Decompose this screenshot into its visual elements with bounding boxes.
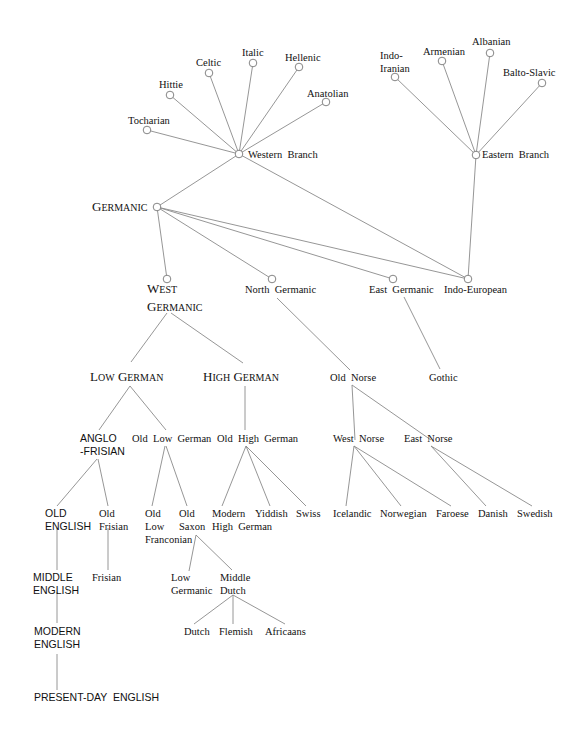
node-label-old-frisian: OldFrisian (99, 508, 129, 532)
node-circle-icon (295, 63, 303, 71)
node-label-high-german: HIGH GERMAN (203, 369, 279, 384)
tree-edge (239, 67, 299, 154)
node-label-germanic: GERMANIC (92, 199, 148, 214)
node-circle-icon (166, 91, 174, 99)
node-label-modern-english: MODERNENGLISH (34, 625, 81, 650)
tree-edge (431, 446, 532, 506)
tree-edge (233, 595, 285, 624)
node-label-gothic: Gothic (429, 372, 458, 383)
node-label-frisian: Frisian (92, 572, 122, 583)
node-label-anatolian: Anatolian (307, 88, 349, 99)
tree-edge (346, 446, 354, 506)
node-label-west-germanic: WESTGERMANIC (147, 281, 203, 314)
tree-edge (246, 446, 306, 506)
tree-edge (404, 297, 440, 369)
node-circle-icon (391, 73, 399, 81)
tree-edge (157, 207, 272, 279)
node-circle-icon (472, 151, 480, 159)
tree-edge (277, 298, 350, 370)
node-circle-icon (464, 275, 472, 283)
node-label-tocharian: Tocharian (128, 115, 171, 126)
node-label-celtic: Celtic (196, 57, 221, 68)
tree-edge (395, 77, 476, 155)
node-circle-icon (322, 98, 330, 106)
node-label-danish: Danish (478, 508, 508, 519)
node-label-italic: Italic (242, 47, 264, 58)
tree-edge (239, 63, 253, 154)
node-label-low-german: LOW GERMAN (90, 369, 163, 384)
tree-edge (431, 446, 486, 506)
tree-edge (352, 385, 355, 440)
node-label-anglo-frisian: ANGLO-FRISIAN (80, 432, 125, 457)
tree-svg: TocharianHittieCelticItalicHellenicAnato… (0, 0, 579, 745)
node-circle-icon (143, 126, 151, 134)
node-label-indo-european: Indo-European (444, 284, 508, 295)
tree-edge (352, 385, 431, 440)
node-label-yiddish: Yiddish (255, 508, 288, 519)
tree-edge (209, 73, 239, 154)
tree-edge (157, 207, 393, 279)
tree-edge (476, 53, 490, 155)
tree-edge (166, 446, 187, 506)
node-label-swiss: Swiss (296, 508, 321, 519)
node-label-flemish: Flemish (219, 626, 254, 637)
node-circle-icon (235, 150, 243, 158)
node-label-old-low-german: Old Low German (132, 433, 212, 444)
node-label-low-germanic: LowGermanic (171, 572, 213, 596)
node-label-armenian: Armenian (423, 46, 466, 57)
tree-edge (152, 446, 165, 506)
node-circle-icon (205, 69, 213, 77)
tree-edge (98, 459, 108, 506)
tree-edge (354, 446, 451, 506)
tree-edge (476, 83, 542, 155)
tree-edge (157, 207, 468, 279)
node-label-icelandic: Icelandic (333, 508, 372, 519)
node-label-north-germanic: North Germanic (245, 284, 316, 295)
node-label-old-norse: Old Norse (330, 372, 376, 383)
tree-edge (239, 102, 326, 154)
node-label-present-day-english: PRESENT-DAY ENGLISH (34, 691, 159, 703)
tree-edge (99, 386, 130, 430)
node-label-old-english: OLDENGLISH (45, 507, 91, 532)
node-label-eastern-branch: Eastern Branch (482, 149, 550, 160)
node-circle-icon (486, 49, 494, 57)
tree-edge (157, 207, 167, 279)
node-label-norwegian: Norwegian (380, 508, 427, 519)
node-circle-icon (438, 57, 446, 65)
tree-edge (222, 446, 246, 506)
node-label-africaans: Africaans (265, 626, 306, 637)
node-label-swedish: Swedish (517, 508, 553, 519)
node-circle-icon (153, 203, 161, 211)
tree-edge (171, 313, 243, 363)
tree-edge (157, 154, 239, 207)
node-circle-icon (163, 275, 171, 283)
tree-edge (194, 595, 233, 624)
node-label-indo-iranian: Indo-Iranian (380, 50, 410, 74)
node-circle-icon (389, 275, 397, 283)
node-circle-icon (249, 59, 257, 67)
labels-layer: TocharianHittieCelticItalicHellenicAnato… (33, 36, 556, 703)
tree-edge (354, 446, 401, 506)
node-label-dutch: Dutch (184, 626, 210, 637)
node-label-east-norse: East Norse (404, 433, 453, 444)
node-label-west-norse: West Norse (333, 433, 384, 444)
tree-edge (239, 154, 468, 279)
node-label-balto-slavic: Balto-Slavic (503, 67, 556, 78)
tree-edge (57, 459, 97, 506)
node-label-faroese: Faroese (436, 508, 469, 519)
node-label-hellenic: Hellenic (285, 52, 321, 63)
tree-edge (130, 386, 166, 430)
node-label-middle-dutch: MiddleDutch (220, 572, 251, 596)
language-tree-diagram: TocharianHittieCelticItalicHellenicAnato… (0, 0, 579, 745)
tree-edge (442, 61, 476, 155)
node-label-hittie: Hittie (159, 79, 183, 90)
tree-edge (246, 446, 270, 506)
node-label-old-high-german: Old High German (217, 433, 299, 444)
node-circle-icon (538, 79, 546, 87)
node-circle-icon (268, 275, 276, 283)
tree-edge (468, 155, 476, 279)
node-label-albanian: Albanian (472, 36, 511, 47)
tree-edge (131, 313, 167, 362)
tree-edge (196, 535, 232, 570)
node-label-old-saxon: OldSaxon (179, 508, 206, 532)
